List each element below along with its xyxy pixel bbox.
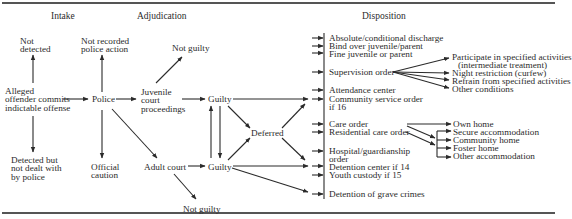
arrow-deferred-to-detention [282,138,305,160]
guilty-bottom-node: Guilty [208,163,231,171]
juvenile-court-node: Juvenilecourtproceedings [141,88,185,113]
disposition-youth-custody: Youth custody if 15 [329,171,401,179]
arrow-deferred-to-community [282,104,305,128]
supervision-other: Other conditions [452,85,514,93]
official-caution-label: Officialcaution [91,163,119,180]
not-detected-label: Notdetected [20,37,51,54]
disposition-residential-care-order: Residential care order [329,128,410,136]
disposition-supervision-order: Supervision order [329,68,395,76]
disposition-fine: Fine juvenile or parent [329,50,412,58]
disposition-community-service-age: if 16 [329,103,346,111]
header-intake: Intake [51,12,75,20]
guilty-top-node: Guilty [208,95,231,103]
detected-not-dealt-label: Detected butnot dealt withby police [11,156,62,181]
arrow-guilty-top-to-deferred [228,106,250,128]
not-recorded-label: Not recordedpolice action [81,37,129,54]
deferred-node: Deferred [251,129,284,137]
header-disposition: Disposition [362,12,406,20]
arrow-police-to-adult [112,109,157,158]
not-guilty-top-label: Not guilty [172,44,210,52]
police-node: Police [92,95,115,103]
arrow-guilty-bottom-to-grave [232,168,308,192]
not-guilty-bottom-label: Not guilty [183,205,221,213]
arrow-guilty-bottom-to-deferred [228,138,250,160]
arrow-adult-to-not-guilty [174,174,196,199]
arrow-care-to-secure [407,126,435,138]
placement-other: Other accommodation [453,152,535,160]
arrow-residential-to-community [406,132,435,145]
arrow-juvenile-to-not-guilty [156,57,182,83]
disposition-grave-crimes: Detention of grave crimes [329,190,425,198]
arrow-supervision-other [393,72,449,88]
adult-court-node: Adult court [144,163,186,171]
arrow-supervision-participate [393,58,449,72]
alleged-offender-label: Allegedoffender commitsindictable offens… [5,87,70,112]
header-adjudication: Adjudication [137,12,187,20]
